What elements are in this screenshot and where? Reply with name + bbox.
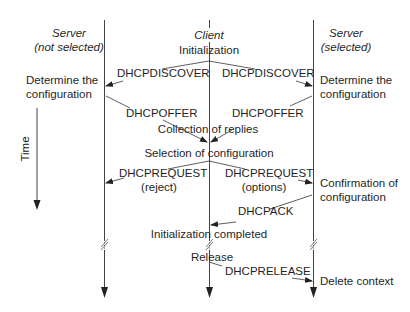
time-axis-label: Time (19, 136, 31, 161)
server-not-selected-title: Server (52, 26, 86, 40)
message-dhcprequest-options: DHCPREQUEST (225, 166, 313, 180)
message-dhcpdiscover-right: DHCPDISCOVER (222, 66, 315, 80)
message-dhcprequest-options-sub: (options) (242, 180, 287, 194)
message-dhcpack: DHCPACK (238, 204, 293, 218)
message-dhcprequest-reject-sub: (reject) (141, 180, 177, 194)
confirmation-label-2: configuration (320, 190, 386, 204)
time-axis-arrow (34, 108, 41, 210)
lifeline-server-selected (310, 20, 317, 298)
right-determine-label-1: Determine the (320, 73, 392, 87)
confirmation-label-1: Confirmation of (320, 176, 398, 190)
delete-context-label: Delete context (320, 274, 394, 288)
lifeline-server-not-selected (101, 20, 108, 298)
collection-of-replies-label: Collection of replies (158, 122, 258, 136)
left-determine-label-2: configuration (26, 87, 92, 101)
release-label: Release (191, 250, 233, 264)
left-determine-label-1: Determine the (26, 73, 98, 87)
server-selected-title: Server (329, 26, 363, 40)
client-title: Client (193, 28, 224, 42)
message-dhcprequest-reject: DHCPREQUEST (119, 166, 207, 180)
right-determine-label-2: configuration (320, 87, 386, 101)
server-not-selected-subtitle: (not selected) (34, 40, 104, 54)
message-dhcpoffer-left: DHCPOFFER (126, 106, 198, 120)
message-dhcpoffer-right: DHCPOFFER (232, 106, 304, 120)
message-dhcpdiscover-left: DHCPDISCOVER (117, 66, 210, 80)
server-selected-subtitle: (selected) (321, 40, 372, 54)
message-dhcprelease: DHCPRELEASE (225, 264, 311, 278)
selection-of-configuration-label: Selection of configuration (144, 146, 273, 160)
client-initialization-label: Initialization (179, 43, 239, 57)
initialization-completed-label: Initialization completed (151, 227, 267, 241)
